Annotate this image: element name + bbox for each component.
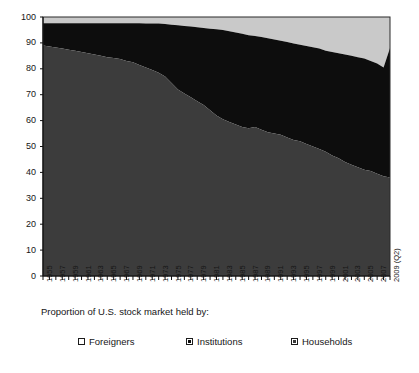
y-axis-tick-label: 70 [10, 90, 36, 99]
x-axis-title: Proportion of U.S. stock market held by: [41, 306, 209, 317]
x-axis-tick-label: 2007 [380, 265, 388, 282]
y-axis-tick-label: 30 [10, 194, 36, 203]
x-axis-tick-label: 1959 [72, 265, 80, 282]
legend-item: Foreigners [78, 336, 134, 347]
legend-label: Foreigners [89, 336, 134, 347]
x-axis-tick-label: 1981 [213, 265, 221, 282]
x-axis-tick-label: 1989 [264, 265, 272, 282]
x-axis-tick-label: 2003 [354, 265, 362, 282]
x-axis-tick-label: 1961 [85, 265, 93, 282]
y-axis-tick-label: 20 [10, 220, 36, 229]
x-axis-tick-label: 1983 [226, 265, 234, 282]
legend-swatch-fill [187, 339, 192, 344]
x-axis-tick-label: 2009 (Q2) [393, 248, 401, 282]
legend-label: Institutions [197, 336, 242, 347]
x-axis-tick-label: 1969 [136, 265, 144, 282]
y-axis-tick-label: 10 [10, 246, 36, 255]
legend-swatch-icon [78, 338, 85, 345]
x-axis-tick-label: 1973 [162, 265, 170, 282]
stacked-area-chart: 0102030405060708090100 19551957195919611… [0, 0, 419, 373]
x-axis-tick-label: 1997 [316, 265, 324, 282]
x-axis-tick-label: 1979 [200, 265, 208, 282]
y-axis-tick-label: 90 [10, 38, 36, 47]
x-axis-tick-label: 1957 [59, 265, 67, 282]
x-axis-tick-label: 2001 [342, 265, 350, 282]
x-axis-tick-label: 1977 [187, 265, 195, 282]
x-axis-tick-label: 1993 [290, 265, 298, 282]
y-axis-tick-label: 0 [10, 272, 36, 281]
legend-swatch-icon [186, 338, 193, 345]
x-axis-tick-label: 2005 [367, 265, 375, 282]
chart-legend: ForeignersInstitutionsHouseholds [0, 334, 419, 352]
x-axis-tick-label: 1965 [110, 265, 118, 282]
y-axis-tick-label: 100 [10, 13, 36, 22]
x-axis-tick-label: 1971 [149, 265, 157, 282]
legend-item: Households [291, 336, 352, 347]
x-axis-tick-label: 1995 [303, 265, 311, 282]
x-axis-tick-label: 1987 [252, 265, 260, 282]
x-axis-tick-label: 1967 [123, 265, 131, 282]
plot-area [0, 0, 419, 373]
x-axis-tick-label: 1955 [46, 265, 54, 282]
legend-swatch-icon [291, 338, 298, 345]
legend-label: Households [302, 336, 352, 347]
y-axis-tick-label: 50 [10, 142, 36, 151]
x-axis-tick-label: 1985 [239, 265, 247, 282]
x-axis-tick-label: 1991 [277, 265, 285, 282]
x-axis-tick-label: 1975 [175, 265, 183, 282]
y-axis-tick-label: 60 [10, 116, 36, 125]
y-axis-tick-label: 80 [10, 64, 36, 73]
y-axis-tick-label: 40 [10, 168, 36, 177]
legend-swatch-fill [79, 339, 84, 344]
legend-item: Institutions [186, 336, 242, 347]
x-axis-tick-label: 1963 [97, 265, 105, 282]
x-axis-tick-label: 1999 [329, 265, 337, 282]
legend-swatch-fill [292, 339, 297, 344]
